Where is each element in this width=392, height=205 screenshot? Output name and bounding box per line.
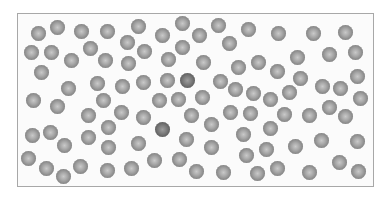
- particle-sphere: [243, 106, 258, 121]
- particle-sphere: [189, 164, 204, 179]
- particle-sphere: [241, 22, 256, 37]
- particle-sphere: [74, 24, 89, 39]
- particle-sphere: [338, 25, 353, 40]
- particle-sphere: [263, 92, 278, 107]
- particle-sphere: [24, 45, 39, 60]
- particle-sphere: [43, 125, 58, 140]
- particle-sphere: [21, 151, 36, 166]
- particle-sphere: [31, 26, 46, 41]
- particle-sphere: [293, 71, 308, 86]
- particle-sphere: [161, 52, 176, 67]
- particle-sphere: [306, 26, 321, 41]
- particle-sphere: [81, 108, 96, 123]
- particle-sphere: [124, 161, 139, 176]
- particle-sphere: [322, 100, 337, 115]
- particle-sphere: [120, 35, 135, 50]
- particle-sphere: [204, 140, 219, 155]
- particle-sphere: [44, 45, 59, 60]
- particle-sphere: [155, 122, 170, 137]
- particle-sphere: [64, 53, 79, 68]
- particle-sphere: [288, 139, 303, 154]
- particle-sphere: [57, 138, 72, 153]
- particle-sphere: [290, 50, 305, 65]
- particle-sphere: [213, 74, 228, 89]
- particle-sphere: [271, 26, 286, 41]
- particle-sphere: [350, 69, 365, 84]
- particle-sphere: [73, 159, 88, 174]
- particle-sphere: [39, 161, 54, 176]
- particle-sphere: [160, 73, 175, 88]
- particle-sphere: [50, 99, 65, 114]
- particle-sphere: [211, 18, 226, 33]
- particle-sphere: [137, 44, 152, 59]
- particle-sphere: [277, 107, 292, 122]
- particle-sphere: [263, 121, 278, 136]
- particle-sphere: [314, 133, 329, 148]
- particle-sphere: [223, 105, 238, 120]
- particle-sphere: [270, 161, 285, 176]
- particle-sphere: [115, 79, 130, 94]
- particle-sphere: [100, 163, 115, 178]
- particle-sphere: [302, 108, 317, 123]
- particle-sphere: [180, 73, 195, 88]
- particle-sphere: [136, 75, 151, 90]
- particle-sphere: [332, 155, 347, 170]
- particle-sphere: [351, 164, 366, 179]
- particle-sphere: [222, 36, 237, 51]
- particle-sphere: [196, 55, 211, 70]
- particle-sphere: [61, 81, 76, 96]
- particle-sphere: [175, 40, 190, 55]
- particle-sphere: [25, 128, 40, 143]
- particle-sphere: [204, 117, 219, 132]
- particle-sphere: [251, 55, 266, 70]
- particle-sphere: [136, 110, 151, 125]
- particle-sphere: [192, 28, 207, 43]
- particle-sphere: [231, 60, 246, 75]
- particle-sphere: [83, 41, 98, 56]
- particle-sphere: [34, 65, 49, 80]
- particle-sphere: [179, 132, 194, 147]
- particle-sphere: [100, 24, 115, 39]
- particle-sphere: [350, 134, 365, 149]
- particle-sphere: [90, 76, 105, 91]
- particle-sphere: [175, 16, 190, 31]
- particle-sphere: [184, 108, 199, 123]
- particle-sphere: [246, 86, 261, 101]
- particle-sphere: [152, 93, 167, 108]
- particle-sphere: [121, 56, 136, 71]
- particle-sphere: [26, 93, 41, 108]
- particle-sphere: [56, 169, 71, 184]
- particle-sphere: [282, 85, 297, 100]
- particle-sphere: [101, 120, 116, 135]
- particle-sphere: [131, 19, 146, 34]
- particle-sphere: [81, 130, 96, 145]
- particle-sphere: [333, 81, 348, 96]
- particle-sphere: [259, 142, 274, 157]
- particle-sphere: [216, 165, 231, 180]
- particle-sphere: [250, 166, 265, 181]
- particle-sphere: [270, 64, 285, 79]
- particle-sphere: [131, 136, 146, 151]
- particle-sphere: [195, 90, 210, 105]
- particle-sphere: [315, 79, 330, 94]
- particle-sphere: [114, 105, 129, 120]
- particle-sphere: [348, 45, 363, 60]
- particle-sphere: [353, 91, 368, 106]
- particle-sphere: [147, 153, 162, 168]
- particle-sphere: [338, 109, 353, 124]
- particle-sphere: [228, 82, 243, 97]
- particle-sphere: [155, 28, 170, 43]
- particle-sphere: [96, 93, 111, 108]
- particle-sphere: [171, 92, 186, 107]
- particle-sphere: [50, 20, 65, 35]
- particle-sphere: [239, 148, 254, 163]
- particle-sphere: [101, 140, 116, 155]
- particle-sphere: [302, 165, 317, 180]
- particle-sphere: [98, 53, 113, 68]
- particle-sphere: [236, 127, 251, 142]
- particle-sphere: [322, 47, 337, 62]
- particle-sphere: [172, 152, 187, 167]
